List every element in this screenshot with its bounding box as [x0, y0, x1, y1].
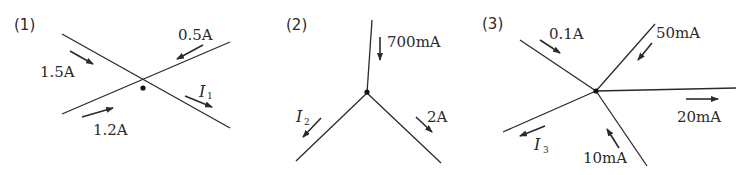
diagram-1-label: (1): [14, 16, 35, 34]
current-label: I: [295, 107, 303, 126]
current-subscript: 2: [304, 117, 310, 127]
current-label: 1.2A: [93, 121, 128, 139]
current-label: I: [533, 135, 541, 154]
junction-node: [593, 88, 598, 93]
wire: [503, 91, 596, 132]
diagram-3: (3) 0.1A 50mA 20mA 10mA I 3: [482, 15, 736, 167]
arrow-icon: [177, 45, 203, 59]
junction-node: [140, 85, 145, 90]
diagram-2: (2) 700mA I 2 2A: [286, 16, 448, 163]
kirchhoff-junction-diagrams: (1) 1.5A 0.5A 1.2A I 1 (2) 700mA I 2 2A …: [0, 0, 745, 175]
current-label: 50mA: [656, 24, 700, 42]
wire: [367, 93, 441, 163]
arrow-icon: [520, 126, 545, 136]
diagram-1: (1) 1.5A 0.5A 1.2A I 1: [14, 16, 230, 139]
current-label: 0.5A: [178, 26, 213, 44]
diagram-3-label: (3): [482, 15, 503, 33]
current-label: I: [198, 82, 206, 101]
wire: [296, 93, 367, 161]
current-label: 0.1A: [549, 25, 584, 43]
current-subscript: 3: [543, 145, 549, 155]
wire: [596, 88, 736, 91]
current-label: 700mA: [387, 33, 441, 51]
current-subscript: 1: [207, 91, 213, 101]
current-label: 2A: [427, 108, 448, 126]
wire: [62, 34, 230, 128]
arrow-icon: [638, 43, 652, 60]
wire: [367, 20, 372, 93]
arrow-icon: [607, 129, 619, 148]
diagram-2-label: (2): [286, 16, 307, 34]
wire: [520, 40, 596, 91]
junction-node: [364, 89, 369, 94]
current-label: 1.5A: [40, 63, 75, 81]
wire: [62, 42, 230, 114]
arrow-icon: [82, 108, 113, 117]
wire: [596, 24, 655, 91]
current-label: 10mA: [583, 149, 627, 167]
current-label: 20mA: [677, 108, 721, 126]
